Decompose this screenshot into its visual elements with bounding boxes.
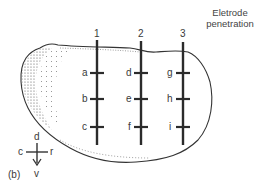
orientation-dorsal: d (34, 132, 40, 142)
site-label-f: f (128, 122, 131, 132)
site-label-e: e (126, 94, 132, 104)
site-label-g: g (167, 68, 173, 78)
site-label-h: h (167, 94, 173, 104)
site-label-i: i (169, 122, 171, 132)
figure-title: Eletrode penetration (200, 7, 260, 29)
site-label-d: d (126, 68, 132, 78)
electrode-1 (90, 40, 104, 145)
electrode-number-2: 2 (138, 29, 144, 39)
orientation-rostral: r (50, 147, 53, 157)
orientation-compass-icon (26, 143, 48, 165)
site-label-c: c (82, 122, 87, 132)
title-line-2: penetration (200, 18, 260, 29)
site-label-a: a (82, 68, 88, 78)
panel-label: (b) (8, 170, 20, 180)
title-line-1: Eletrode (200, 7, 260, 18)
site-label-b: b (82, 94, 88, 104)
stippled-region (22, 48, 72, 130)
electrode-3 (176, 42, 190, 145)
electrode-number-1: 1 (94, 29, 100, 39)
orientation-ventral: v (34, 169, 39, 179)
electrode-2 (134, 41, 148, 145)
orientation-caudal: c (18, 147, 23, 157)
electrode-number-3: 3 (180, 29, 186, 39)
